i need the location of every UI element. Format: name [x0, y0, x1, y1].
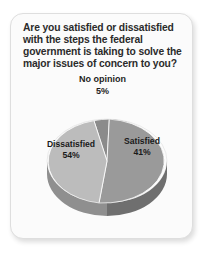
satisfied-name: Satisfied	[124, 136, 160, 146]
screenshot-root: Are you satisfied or dissatisfied with t…	[0, 0, 205, 254]
pie-chart-svg	[11, 14, 193, 239]
dissatisfied-name: Dissatisfied	[47, 139, 95, 149]
survey-card: Are you satisfied or dissatisfied with t…	[10, 13, 193, 239]
pie-chart: Dissatisfied 54% Satisfied 41%	[11, 14, 193, 239]
satisfied-value: 41%	[111, 147, 173, 158]
slice-label-dissatisfied: Dissatisfied 54%	[33, 139, 109, 160]
dissatisfied-value: 54%	[33, 150, 109, 161]
slice-label-satisfied: Satisfied 41%	[111, 136, 173, 157]
